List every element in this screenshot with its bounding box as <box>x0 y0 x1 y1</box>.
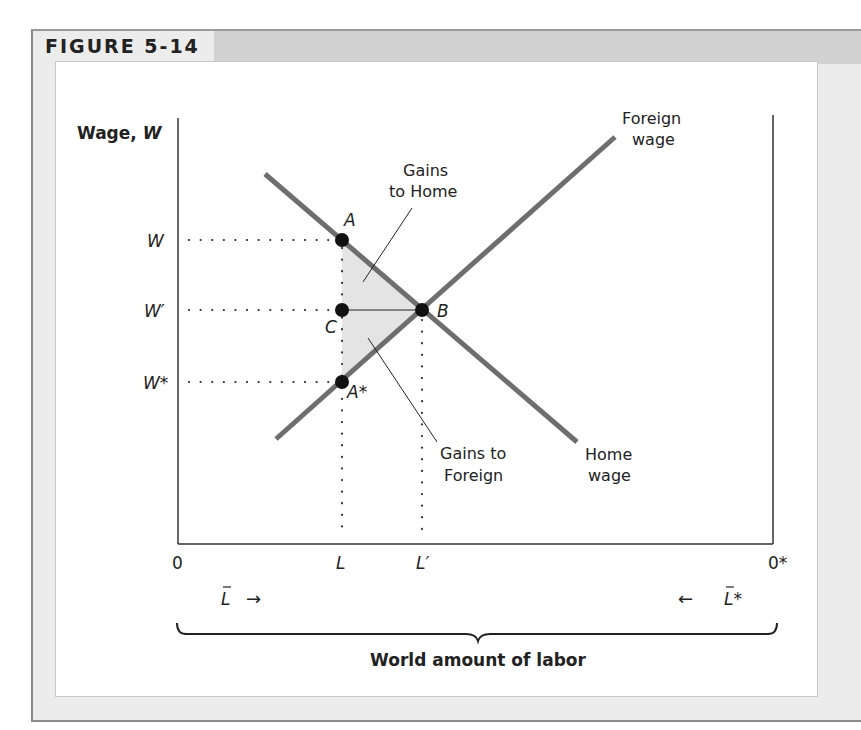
label-b: B <box>437 301 449 321</box>
label-a-star: A* <box>346 382 367 402</box>
foreign-wage-label-1: Foreign <box>622 109 681 128</box>
gains-foreign-leader <box>368 338 437 442</box>
gains-home-label-1: Gains <box>403 161 448 180</box>
label-a: A <box>343 210 356 230</box>
point-c <box>335 303 349 317</box>
point-a <box>335 233 349 247</box>
x-tick-l-prime: L′ <box>416 553 429 573</box>
arrow-left-icon: ← <box>678 588 693 609</box>
gains-foreign-label-1: Gains to <box>440 444 506 463</box>
home-wage-label-1: Home <box>585 445 632 464</box>
world-labor-brace <box>177 623 777 641</box>
gains-home-label-2: to Home <box>389 182 457 201</box>
arrow-right-icon: → <box>246 588 261 609</box>
y-tick-w-prime: W′ <box>144 301 165 321</box>
origin-foreign-label: 0* <box>768 553 787 573</box>
home-wage-label-2: wage <box>588 466 631 485</box>
label-c: C <box>325 317 337 337</box>
l-bar-home: L <box>221 589 230 609</box>
point-b <box>415 303 429 317</box>
x-tick-l: L <box>336 553 345 573</box>
l-bar-foreign: L* <box>724 589 742 609</box>
origin-home-label: 0 <box>172 553 183 573</box>
gains-foreign-label-2: Foreign <box>444 466 503 485</box>
y-axis-label: Wage, W <box>77 123 163 143</box>
foreign-wage-label-2: wage <box>632 130 675 149</box>
x-axis-caption: World amount of labor <box>370 650 586 670</box>
y-tick-w-star: W* <box>143 373 168 393</box>
y-tick-w: W <box>147 231 165 251</box>
gains-home-leader <box>363 208 412 282</box>
